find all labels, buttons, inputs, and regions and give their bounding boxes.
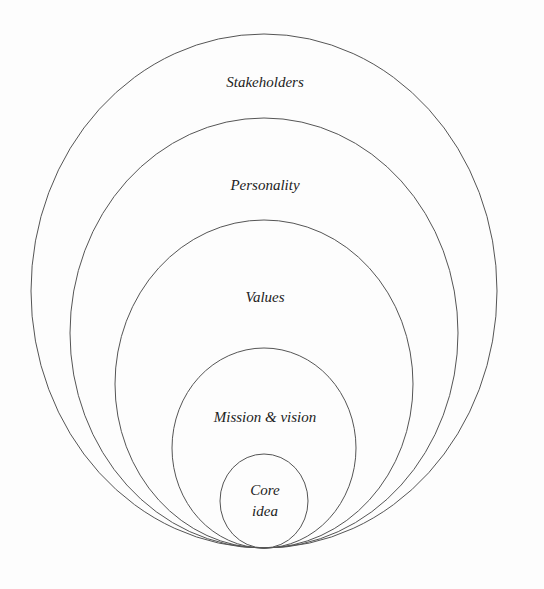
label-mission-vision: Mission & vision [214,407,317,427]
label-personality: Personality [230,175,299,195]
label-core: Core [250,480,279,500]
nested-circles-diagram: Stakeholders Personality Values Mission … [0,0,544,589]
label-idea: idea [252,501,278,521]
label-stakeholders: Stakeholders [226,72,303,92]
label-values: Values [245,287,284,307]
